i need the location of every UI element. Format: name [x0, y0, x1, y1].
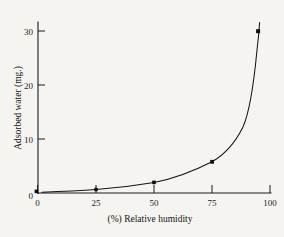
data-point-2 — [152, 181, 156, 185]
adsorption-chart: 30 20 10 0 0 25 50 75 100 Adsorbed water… — [0, 0, 284, 237]
chart-screenshot: 30 20 10 0 0 25 50 75 100 Adsorbed water… — [0, 0, 284, 237]
data-point-0 — [35, 190, 39, 194]
data-point-1 — [94, 188, 97, 191]
x-tick-label-50: 50 — [150, 198, 160, 208]
y-axis-title: Adsorbed water (mg.) — [13, 66, 24, 150]
y-tick-label-20: 20 — [24, 81, 34, 91]
y-tick-label-30: 30 — [24, 27, 34, 37]
y-tick-label-0: 0 — [29, 191, 34, 201]
data-point-3 — [210, 160, 214, 164]
x-axis-title: (%) Relative humidity — [108, 214, 193, 225]
chart-background — [0, 0, 284, 237]
data-point-4 — [256, 29, 260, 33]
x-tick-label-0: 0 — [35, 198, 40, 208]
x-tick-label-25: 25 — [92, 198, 102, 208]
y-tick-label-10: 10 — [24, 135, 34, 145]
x-tick-label-75: 75 — [208, 198, 218, 208]
x-tick-label-100: 100 — [263, 198, 277, 208]
